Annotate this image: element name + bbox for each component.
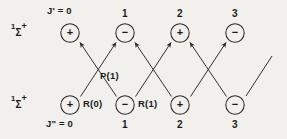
tick-label-lower-1: 1 [118, 120, 132, 130]
tick-label-lower-2: 2 [173, 120, 187, 130]
transition-label-R0: R(0) [83, 99, 102, 109]
transition-diagram: + − + − + − + − 1 2 3 1 2 3 J' = 0 J" = … [0, 0, 287, 139]
lower-quantum-number-label: J" = 0 [46, 119, 73, 129]
tick-label-upper-2: 2 [173, 9, 187, 19]
arrow-continuation-truncated [246, 56, 272, 96]
tick-label-upper-3: 3 [228, 9, 242, 19]
parity-sign-lower-1: − [118, 99, 132, 110]
parity-sign-lower-0: + [63, 99, 77, 110]
transition-label-R1: R(1) [138, 99, 157, 109]
lower-term-letter: Σ [15, 99, 21, 110]
parity-sign-upper-1: − [118, 27, 132, 38]
tick-label-lower-3: 3 [228, 120, 242, 130]
tick-label-upper-1: 1 [118, 9, 132, 19]
upper-state-levels [61, 24, 244, 42]
diagram-canvas [0, 0, 287, 139]
parity-sign-lower-3: − [228, 99, 242, 110]
transition-label-P1: P(1) [100, 71, 119, 81]
parity-sign-upper-0: + [63, 27, 77, 38]
upper-term-symbol: 1Σ+ [11, 22, 27, 36]
parity-sign-upper-3: − [228, 27, 242, 38]
parity-sign-upper-2: + [173, 27, 187, 38]
lower-term-parity: + [21, 93, 26, 103]
upper-term-letter: Σ [15, 27, 21, 38]
upper-term-parity: + [21, 21, 26, 31]
lower-term-symbol: 1Σ+ [11, 94, 27, 108]
parity-sign-lower-2: + [173, 99, 187, 110]
upper-quantum-number-label: J' = 0 [47, 6, 72, 16]
